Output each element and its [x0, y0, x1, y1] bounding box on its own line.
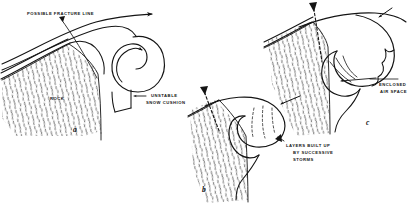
panel-label-c: c — [366, 119, 370, 128]
annotation-layers-line1: LAYERS BUILT UP — [286, 144, 330, 149]
annotation-rock: ROCK — [50, 97, 64, 102]
panel-label-b: b — [202, 186, 206, 195]
annotation-enclosed-air-space-line2: AIR SPACE — [380, 90, 407, 95]
annotation-unstable-snow-cushion-line1: UNSTABLE — [151, 94, 178, 99]
annotation-layers-line3: STORMS — [293, 158, 314, 163]
panel-a-artwork — [1, 14, 164, 140]
annotation-possible-fracture-line: POSSIBLE FRACTURE LINE — [27, 12, 94, 17]
diagram-artwork — [0, 0, 417, 209]
panel-c-artwork — [264, 2, 406, 136]
annotation-unstable-snow-cushion-line2: SNOW CUSHION — [146, 101, 186, 106]
figure-canvas: POSSIBLE FRACTURE LINE ROCK UNSTABLE SNO… — [0, 0, 417, 209]
annotation-layers-line2: BY SUCCESSIVE — [293, 151, 333, 156]
panel-label-a: a — [73, 126, 77, 135]
annotation-enclosed-air-space-line1: ENCLOSED — [379, 83, 406, 88]
